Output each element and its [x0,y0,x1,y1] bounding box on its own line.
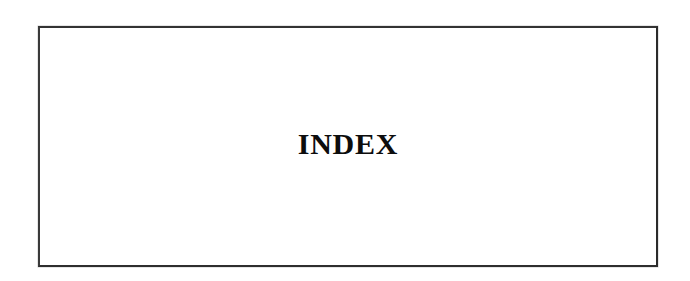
scanned-page: INDEX [0,0,690,281]
index-frame-content-area: INDEX [40,28,656,265]
index-section-divider-box: INDEX [38,26,658,267]
index-heading: INDEX [298,129,399,159]
